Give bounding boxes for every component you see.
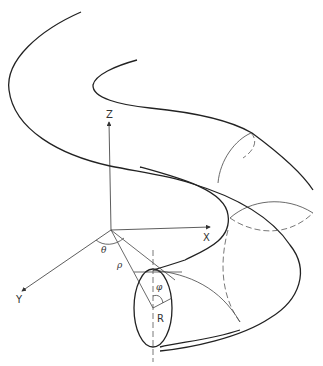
x-axis [111, 227, 210, 230]
radius-line [153, 298, 172, 308]
tube-outer-edge [9, 12, 301, 351]
z-axis [109, 122, 111, 230]
radius-label: R [157, 313, 164, 324]
phi-arc [153, 295, 163, 303]
tube-inner-edge [93, 60, 313, 190]
phi-label: φ [156, 282, 163, 292]
ring-3-back [223, 230, 240, 322]
tangent-line-origin [111, 230, 175, 280]
ring-2-back [230, 213, 313, 231]
theta-arc [96, 238, 124, 244]
ring-1-front [218, 133, 251, 183]
theta-label: θ [101, 245, 107, 255]
y-axis [22, 230, 111, 291]
x-axis-label: X [203, 232, 210, 243]
y-axis-label: Y [15, 294, 23, 305]
z-axis-label: Z [106, 109, 113, 120]
tube-diagram: Z X Y θ ρ R φ [0, 0, 323, 366]
rho-label: ρ [116, 260, 123, 270]
